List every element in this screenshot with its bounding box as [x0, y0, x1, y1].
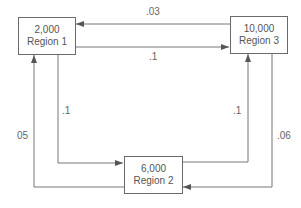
edge-r3-r2	[183, 53, 272, 187]
region-2-name: Region 2	[133, 175, 173, 187]
region-1-value: 2,000	[34, 24, 59, 36]
edge-label-r3-r1: .03	[146, 6, 160, 17]
edge-label-r2-r1: 05	[17, 130, 28, 141]
region-3-name: Region 3	[239, 35, 279, 47]
edge-r2-r1	[34, 55, 124, 187]
region-2-value: 6,000	[141, 163, 166, 175]
edge-label-r1-r3: .1	[149, 51, 157, 62]
region-2-node: 6,000 Region 2	[124, 156, 183, 194]
edge-label-r1-r2: .1	[62, 105, 70, 116]
region-1-name: Region 1	[27, 36, 67, 48]
region-1-node: 2,000 Region 1	[18, 17, 76, 55]
region-3-value: 10,000	[244, 23, 275, 35]
edge-label-r2-r3: .1	[233, 105, 241, 116]
edge-label-r3-r2: .06	[277, 130, 291, 141]
region-3-node: 10,000 Region 3	[230, 16, 288, 54]
